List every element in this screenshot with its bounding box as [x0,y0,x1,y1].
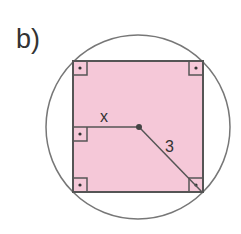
label-radius: 3 [165,138,174,155]
geometry-figure: x 3 [0,0,241,234]
label-x: x [100,108,108,125]
center-point [136,124,142,130]
